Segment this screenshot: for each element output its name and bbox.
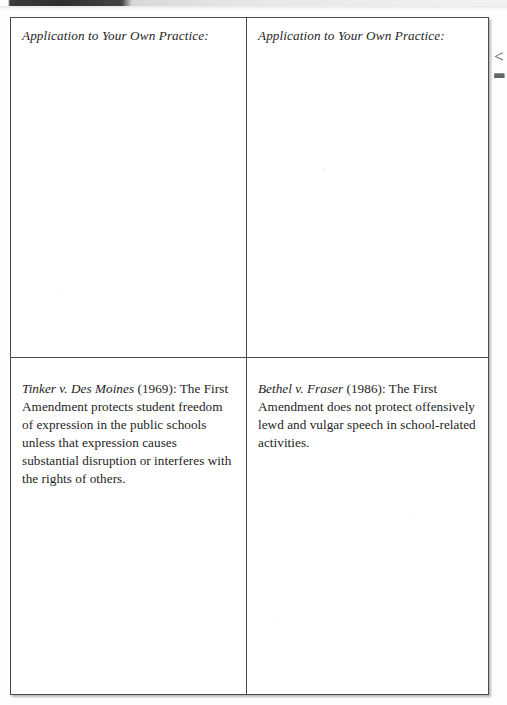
cell-case-right: Bethel v. Fraser (1986): The First Amend… [247, 358, 488, 695]
table-row-application: Application to Your Own Practice: Applic… [11, 18, 488, 358]
scanned-page: < ▄▄ Application to Your Own Practice: A… [0, 0, 507, 705]
application-prompt-label-left: Application to Your Own Practice: [22, 27, 235, 44]
margin-mark: < ▄▄ [494, 48, 507, 78]
cell-application-right[interactable]: Application to Your Own Practice: [247, 18, 488, 357]
page-header-band-fade [0, 6, 507, 10]
table-row-cases: Tinker v. Des Moines (1969): The First A… [11, 358, 488, 695]
worksheet-table: Application to Your Own Practice: Applic… [10, 17, 489, 695]
case-summary-left: Tinker v. Des Moines (1969): The First A… [22, 380, 235, 488]
application-prompt-label-right: Application to Your Own Practice: [258, 27, 477, 44]
cell-application-left[interactable]: Application to Your Own Practice: [11, 18, 247, 357]
margin-mark-subglyph: ▄▄ [494, 65, 503, 78]
case-summary-right: Bethel v. Fraser (1986): The First Amend… [258, 380, 477, 452]
cell-case-left: Tinker v. Des Moines (1969): The First A… [11, 358, 247, 695]
case-body-tinker: (1969): The First Amendment protects stu… [22, 381, 231, 486]
case-name-tinker: Tinker v. Des Moines [22, 381, 134, 396]
margin-mark-glyph: < [494, 48, 504, 65]
case-name-bethel: Bethel v. Fraser [258, 381, 343, 396]
